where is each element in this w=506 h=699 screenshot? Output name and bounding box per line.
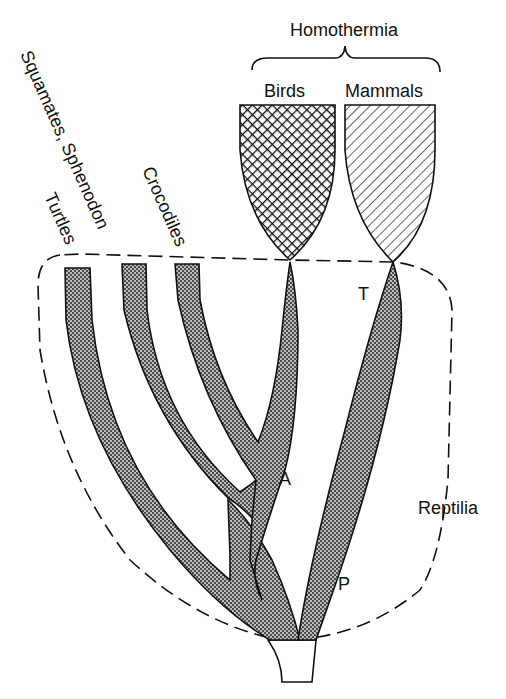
turtles-label: Turtles	[40, 189, 80, 247]
phylogeny-diagram: Homothermia Birds Mammals Turtles Squama…	[0, 0, 506, 699]
birds-clade	[240, 105, 335, 260]
homothermia-brace	[252, 46, 440, 72]
node-label-t: T	[358, 284, 369, 304]
node-label-a: A	[279, 469, 291, 489]
node-label-p: P	[338, 574, 350, 594]
reptilia-label: Reptilia	[418, 498, 479, 518]
mammals-label: Mammals	[345, 81, 423, 101]
crocodiles-label: Crocodiles	[138, 163, 191, 249]
birds-label: Birds	[264, 81, 305, 101]
mammals-clade	[345, 105, 435, 262]
ancestral-stem	[268, 640, 316, 682]
homothermia-label: Homothermia	[290, 20, 399, 40]
